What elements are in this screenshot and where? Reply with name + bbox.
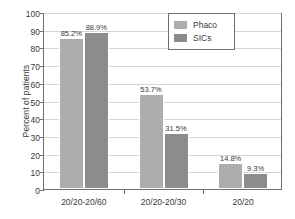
y-axis-tick-label: 10 [31, 168, 40, 178]
x-axis-tick [124, 189, 125, 194]
legend-label-sics: SICs [193, 33, 211, 43]
bar-sics-2: 9.3% [243, 173, 268, 189]
y-axis-tick [40, 137, 44, 138]
y-axis-tick-label: 50 [31, 98, 40, 108]
x-axis-tick [203, 189, 204, 194]
bar-value-label: 53.7% [140, 85, 161, 94]
y-axis-tick-label: 100 [26, 9, 40, 19]
bar-value-label: 85.2% [61, 29, 82, 38]
legend-swatch-sics [174, 34, 187, 42]
bar-value-label: 31.5% [165, 124, 186, 133]
y-axis-tick [40, 190, 44, 191]
y-axis-tick-label: 80 [31, 44, 40, 54]
chart-legend: Phaco SICs [168, 13, 235, 50]
bar-value-label: 88.9% [86, 23, 107, 32]
x-axis-category-label: 20/20-20/30 [141, 197, 186, 207]
y-axis-tick-label: 90 [31, 27, 40, 37]
legend-label-phaco: Phaco [193, 20, 217, 30]
y-axis-tick-label: 40 [31, 115, 40, 125]
y-axis-tick [40, 48, 44, 49]
y-axis-tick [40, 155, 44, 156]
bar-value-label: 14.8% [220, 154, 241, 163]
bar-group: 85.2%88.9% [59, 14, 109, 189]
legend-swatch-phaco [174, 21, 187, 29]
y-axis-tick-label: 0 [35, 186, 40, 196]
bar-sics-1: 31.5% [164, 133, 189, 189]
y-axis-tick [40, 13, 44, 14]
y-axis-title: Percent of patients [21, 26, 31, 176]
x-axis-category-label: 20/20-20/60 [61, 197, 106, 207]
bar-value-label: 9.3% [247, 164, 264, 173]
y-axis-tick-label: 60 [31, 80, 40, 90]
y-axis-tick [40, 31, 44, 32]
bar-phaco-0: 85.2% [59, 38, 84, 189]
legend-item-sics: SICs [174, 31, 229, 44]
y-axis-tick [40, 119, 44, 120]
bar-phaco-2: 14.8% [218, 163, 243, 189]
bar-chart: Percent of patients 01020304050607080901… [0, 0, 295, 219]
y-axis-tick [40, 172, 44, 173]
y-axis-tick [40, 66, 44, 67]
legend-item-phaco: Phaco [174, 18, 229, 31]
bar-phaco-1: 53.7% [139, 94, 164, 189]
plot-area: 010203040506070809010085.2%88.9%20/20-20… [43, 13, 282, 190]
bar-sics-0: 88.9% [84, 32, 109, 189]
y-axis-tick-label: 70 [31, 62, 40, 72]
x-axis-category-label: 20/20 [233, 197, 254, 207]
y-axis-tick-label: 30 [31, 133, 40, 143]
y-axis-tick [40, 84, 44, 85]
y-axis-tick-label: 20 [31, 151, 40, 161]
y-axis-tick [40, 102, 44, 103]
